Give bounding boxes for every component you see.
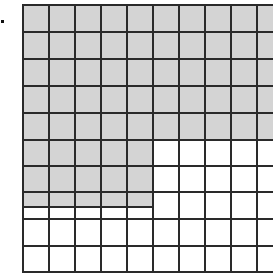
- grid-line-vertical: [204, 4, 206, 273]
- grid-line-vertical: [126, 4, 128, 273]
- grid-line-horizontal: [22, 191, 273, 193]
- grid-line-vertical: [48, 4, 50, 273]
- grid-line-horizontal: [22, 245, 273, 247]
- shaded-region-partial-row: [23, 166, 153, 192]
- shaded-boundary-line: [22, 206, 154, 208]
- grid-line-horizontal: [22, 4, 273, 6]
- shaded-region-full-rows: [23, 5, 273, 140]
- grid-line-horizontal: [22, 139, 273, 141]
- shaded-region-partial-row: [23, 140, 153, 166]
- grid-line-vertical: [22, 4, 24, 273]
- grid-line-vertical: [152, 4, 154, 273]
- grid-line-vertical: [256, 4, 258, 273]
- grid-line-vertical: [74, 4, 76, 273]
- shaded-region-partial-row: [23, 192, 153, 207]
- grid-line-horizontal: [22, 271, 273, 273]
- grid-line-vertical: [230, 4, 232, 273]
- grid-line-horizontal: [22, 58, 273, 60]
- grid-figure: [0, 0, 273, 275]
- grid-line-horizontal: [22, 31, 273, 33]
- dot-marker: [1, 20, 4, 23]
- grid-line-horizontal: [22, 165, 273, 167]
- grid-line-horizontal: [22, 85, 273, 87]
- grid-line-vertical: [100, 4, 102, 273]
- grid-line-vertical: [178, 4, 180, 273]
- grid-line-horizontal: [22, 112, 273, 114]
- grid-line-horizontal: [22, 218, 273, 220]
